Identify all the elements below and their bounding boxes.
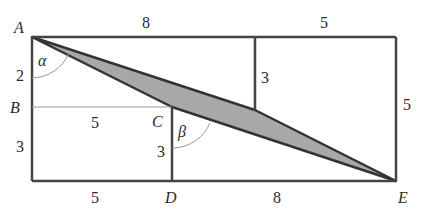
length-bc: 5 bbox=[91, 114, 99, 131]
length-left-upper: 2 bbox=[16, 67, 24, 84]
length-cd: 3 bbox=[157, 143, 165, 160]
point-c-label: C bbox=[152, 113, 163, 130]
length-bottom-left: 5 bbox=[91, 189, 99, 206]
length-right-side: 5 bbox=[403, 96, 411, 113]
length-bottom-right: 8 bbox=[273, 189, 281, 206]
length-top-left: 8 bbox=[142, 14, 150, 31]
point-b-label: B bbox=[10, 99, 20, 116]
point-d-label: D bbox=[164, 189, 177, 206]
length-left-lower: 3 bbox=[16, 138, 24, 155]
point-a-label: A bbox=[13, 19, 24, 36]
length-mid-vertical: 3 bbox=[261, 69, 269, 86]
shaded-quadrilateral bbox=[32, 37, 396, 181]
length-top-right: 5 bbox=[320, 14, 328, 31]
angle-beta-label: β bbox=[177, 123, 186, 141]
point-e-label-visible: E bbox=[397, 189, 408, 206]
geometry-diagram: A B C D E E α β 8 5 2 3 5 3 3 5 5 8 bbox=[0, 0, 425, 221]
angle-alpha-label: α bbox=[38, 52, 47, 69]
